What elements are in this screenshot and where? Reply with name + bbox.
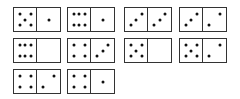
pip xyxy=(207,55,210,58)
pip xyxy=(72,55,75,58)
pip xyxy=(18,86,21,89)
domino-half-left xyxy=(180,8,203,31)
domino-half-left xyxy=(68,39,91,62)
pip xyxy=(29,43,32,46)
pip xyxy=(152,24,155,27)
pip xyxy=(135,18,138,21)
domino-tile xyxy=(13,69,61,94)
pip xyxy=(78,12,81,15)
domino-tile xyxy=(124,38,172,63)
pip xyxy=(140,55,143,58)
domino-half-right xyxy=(37,70,60,93)
pip xyxy=(72,86,75,89)
pip xyxy=(72,12,75,15)
domino-half-right xyxy=(203,39,226,62)
domino-half-left xyxy=(180,39,203,62)
pip xyxy=(83,43,86,46)
pip xyxy=(101,18,104,21)
pip xyxy=(83,74,86,77)
domino-half-right xyxy=(91,8,114,31)
pip xyxy=(41,86,44,89)
pip xyxy=(219,12,222,15)
pip xyxy=(18,74,21,77)
domino-tile xyxy=(179,7,227,32)
pip xyxy=(47,18,50,21)
pip xyxy=(207,24,210,27)
domino-tile xyxy=(124,7,172,32)
pip xyxy=(129,43,132,46)
pip xyxy=(107,43,110,46)
pip xyxy=(29,86,32,89)
pip xyxy=(72,74,75,77)
pip xyxy=(101,49,104,52)
pip xyxy=(72,24,75,27)
domino-tile xyxy=(13,7,61,32)
pip xyxy=(24,18,27,21)
pip xyxy=(83,86,86,89)
pip xyxy=(190,49,193,52)
pip xyxy=(158,18,161,21)
pip xyxy=(140,43,143,46)
domino-half-left xyxy=(68,70,91,93)
domino-half-left xyxy=(125,39,148,62)
pip xyxy=(135,49,138,52)
domino-half-right xyxy=(91,39,114,62)
domino-half-left xyxy=(14,70,37,93)
domino-half-right xyxy=(203,8,226,31)
domino-half-right xyxy=(37,8,60,31)
pip xyxy=(195,12,198,15)
domino-tile xyxy=(67,69,115,94)
pip xyxy=(129,24,132,27)
pip xyxy=(72,43,75,46)
pip xyxy=(18,12,21,15)
pip xyxy=(29,55,32,58)
pip xyxy=(18,24,21,27)
domino-half-right xyxy=(148,39,171,62)
domino-half-left xyxy=(125,8,148,31)
pip xyxy=(164,12,167,15)
pip xyxy=(83,24,86,27)
domino-tile xyxy=(67,7,115,32)
pip xyxy=(95,55,98,58)
domino-tile xyxy=(13,38,61,63)
pip xyxy=(101,80,104,83)
pip xyxy=(78,24,81,27)
pip xyxy=(53,74,56,77)
pip xyxy=(195,55,198,58)
domino-half-right xyxy=(91,70,114,93)
pip xyxy=(195,43,198,46)
pip xyxy=(190,18,193,21)
domino-tile xyxy=(67,38,115,63)
domino-half-right xyxy=(37,39,60,62)
pip xyxy=(184,43,187,46)
pip xyxy=(24,43,27,46)
domino-half-left xyxy=(14,8,37,31)
pip xyxy=(18,43,21,46)
domino-half-left xyxy=(14,39,37,62)
pip xyxy=(219,43,222,46)
pip xyxy=(29,24,32,27)
domino-tile xyxy=(179,38,227,63)
pip xyxy=(140,12,143,15)
pip xyxy=(29,12,32,15)
pip xyxy=(184,55,187,58)
pip xyxy=(24,55,27,58)
pip xyxy=(83,55,86,58)
domino-half-right xyxy=(148,8,171,31)
pip xyxy=(29,74,32,77)
pip xyxy=(18,55,21,58)
pip xyxy=(129,55,132,58)
pip xyxy=(83,12,86,15)
pip xyxy=(184,24,187,27)
domino-half-left xyxy=(68,8,91,31)
